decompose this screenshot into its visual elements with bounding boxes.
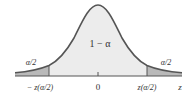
normal-distribution-diagram: 1 − α α/2 α/2 − z(α/2) 0 z(α/2) z [0, 0, 193, 107]
center-area-label: 1 − α [90, 38, 112, 49]
z-axis-label: z [177, 82, 182, 92]
left-tail-label: α/2 [26, 58, 36, 67]
right-critical-value-label: z(α/2) [137, 83, 157, 92]
left-critical-value-label: − z(α/2) [27, 83, 54, 92]
zero-label: 0 [96, 82, 101, 92]
right-tail-label: α/2 [161, 58, 171, 67]
